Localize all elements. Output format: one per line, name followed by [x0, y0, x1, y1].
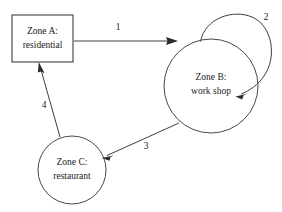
zone-b-label-line1: Zone B: — [196, 72, 227, 82]
edge-1-zone-a-to-zone-b: 1 — [74, 22, 178, 45]
zone-c-label-line2: restaurant — [53, 171, 91, 181]
edge-3-zone-b-to-zone-c: 3 — [102, 123, 180, 161]
zone-c-circle[interactable] — [38, 136, 106, 204]
zone-a-label-line2: residential — [23, 40, 63, 50]
zone-a-box[interactable] — [12, 15, 73, 62]
edge-1-arrowhead-icon — [166, 37, 178, 45]
edge-3-label: 3 — [144, 141, 149, 151]
zone-c-label-line1: Zone C: — [57, 157, 88, 167]
edge-4-label: 4 — [42, 100, 47, 110]
edge-2-label: 2 — [264, 12, 269, 22]
edge-4-zone-c-to-zone-a: 4 — [38, 62, 60, 137]
node-zone-a[interactable]: Zone A: residential — [12, 15, 73, 62]
zone-transition-diagram: 1 4 3 2 Zone B: work shop Zo — [0, 0, 282, 212]
edge-2-arrowhead-icon — [236, 93, 249, 99]
edge-1-label: 1 — [116, 22, 121, 32]
zone-a-label-line1: Zone A: — [27, 26, 58, 36]
zone-b-label-line2: work shop — [191, 86, 231, 96]
diagram-canvas: 1 4 3 2 Zone B: work shop Zo — [0, 0, 282, 212]
node-zone-b[interactable]: Zone B: work shop — [164, 39, 258, 133]
node-zone-c[interactable]: Zone C: restaurant — [38, 136, 106, 204]
